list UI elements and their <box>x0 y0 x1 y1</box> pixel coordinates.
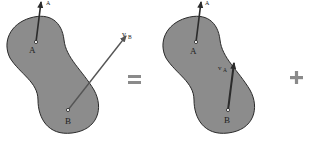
equals-operator <box>128 75 141 84</box>
svg-text:B: B <box>128 34 132 40</box>
svg-text:A: A <box>29 45 36 55</box>
kinematics-diagram: A A B v B A A B v A <box>0 0 312 145</box>
svg-text:A: A <box>190 46 197 56</box>
svg-text:B: B <box>65 116 71 126</box>
svg-text:A: A <box>46 0 51 6</box>
diagram-canvas: A A B v B A A B v A <box>0 0 312 145</box>
svg-text:B: B <box>224 115 230 125</box>
middle-rigid-body <box>163 16 255 133</box>
svg-text:A: A <box>223 67 227 73</box>
plus-operator <box>290 71 303 84</box>
left-rigid-body <box>7 16 99 133</box>
svg-text:v: v <box>122 30 126 39</box>
svg-text:A: A <box>205 0 210 6</box>
svg-text:v: v <box>218 64 222 72</box>
